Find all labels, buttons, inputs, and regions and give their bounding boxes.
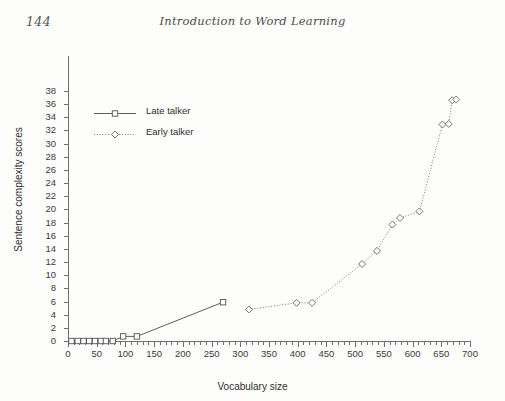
data-point-marker-square xyxy=(81,338,86,343)
legend-item-early-talker[interactable]: Early talker xyxy=(93,121,194,142)
legend-diamond-icon xyxy=(93,129,137,140)
data-point-marker-square xyxy=(120,334,125,339)
series-line xyxy=(71,302,223,341)
data-point-marker-diamond xyxy=(309,299,316,306)
series-early-talker xyxy=(245,96,459,313)
chart-legend: Late talkerEarly talker xyxy=(93,100,194,142)
data-point-marker-square xyxy=(220,299,225,304)
data-point-marker-diamond xyxy=(112,131,119,138)
legend-item-late-talker[interactable]: Late talker xyxy=(93,100,194,121)
data-point-marker-square xyxy=(69,338,74,343)
data-point-marker-diamond xyxy=(416,208,423,215)
legend-square-icon xyxy=(93,108,137,119)
series-plot xyxy=(0,34,505,401)
data-point-marker-diamond xyxy=(445,120,452,127)
running-title: Introduction to Word Learning xyxy=(0,14,505,28)
data-point-marker-square xyxy=(103,338,108,343)
series-line xyxy=(249,100,456,310)
data-point-marker-square xyxy=(112,111,117,116)
data-point-marker-diamond xyxy=(396,214,403,221)
legend-key xyxy=(93,126,137,137)
page-header: 144 Introduction to Word Learning xyxy=(0,0,505,34)
data-point-marker-square xyxy=(92,338,97,343)
legend-key xyxy=(93,105,137,116)
data-point-marker-square xyxy=(87,338,92,343)
data-point-marker-diamond xyxy=(389,221,396,228)
data-point-marker-square xyxy=(98,338,103,343)
data-point-marker-square xyxy=(134,334,139,339)
legend-label: Late talker xyxy=(146,105,190,116)
data-point-marker-square xyxy=(110,338,115,343)
data-point-marker-diamond xyxy=(439,121,446,128)
series-late-talker xyxy=(69,299,226,343)
legend-label: Early talker xyxy=(146,126,194,137)
chart-figure: 02468101214161820222426283032343638 0501… xyxy=(0,34,505,401)
data-point-marker-square xyxy=(75,338,80,343)
data-point-marker-diamond xyxy=(245,306,252,313)
data-point-marker-diamond xyxy=(293,299,300,306)
data-point-marker-diamond xyxy=(359,261,366,268)
